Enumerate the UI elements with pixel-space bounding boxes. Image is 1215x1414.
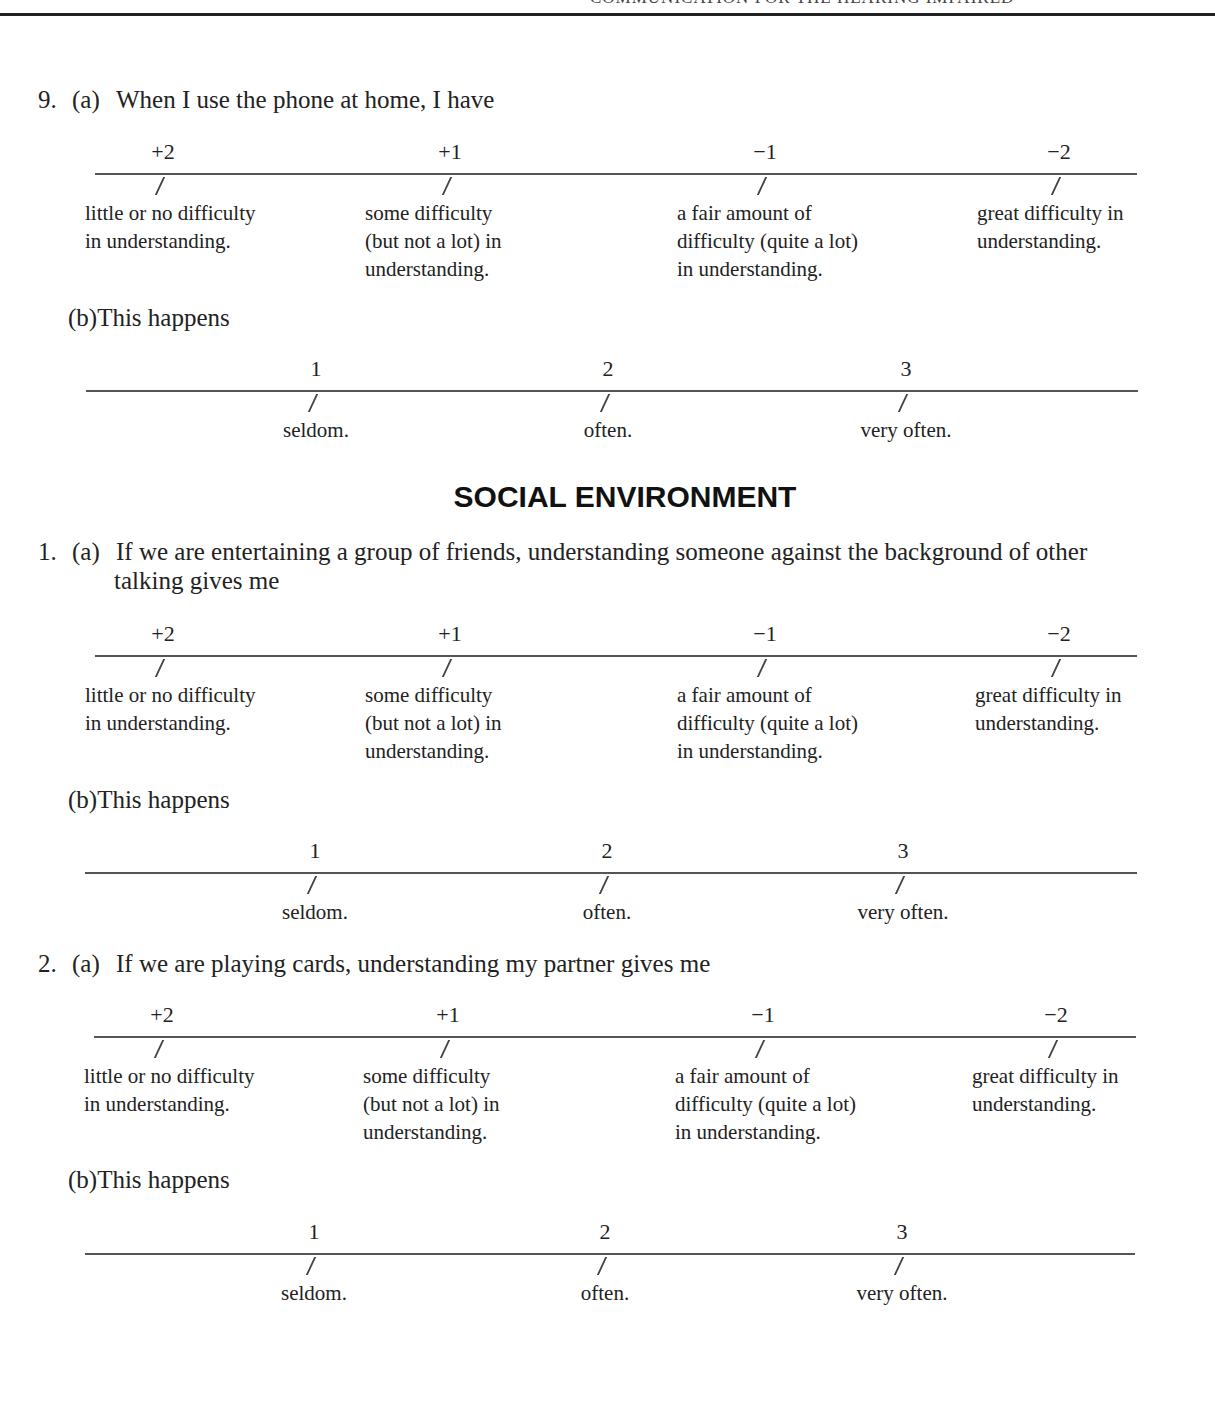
scale-label: a fair amount ofdifficulty (quite a lot)… — [677, 199, 858, 283]
question-number: 9. — [38, 86, 72, 114]
tick-mark — [442, 177, 452, 195]
tick-mark — [155, 659, 165, 677]
tick-mark — [599, 876, 609, 894]
section-title: SOCIAL ENVIRONMENT — [0, 480, 1215, 514]
difficulty-scale-q9: +2 little or no difficultyin understandi… — [95, 173, 1137, 293]
scale-line — [85, 1253, 1135, 1255]
scale-label: very often. — [858, 898, 949, 926]
question-text: This happens — [97, 1166, 230, 1193]
scale-label: often. — [583, 898, 631, 926]
question-2b: (b)This happens — [68, 1166, 230, 1194]
tick-mark — [307, 876, 317, 894]
tick-mark — [1048, 1040, 1058, 1058]
scale-label: little or no difficultyin understanding. — [84, 1062, 255, 1118]
scale-line — [95, 173, 1137, 175]
running-head: COMMUNICATION FOR THE HEARING IMPAIRED — [590, 0, 1014, 8]
scale-label: seldom. — [283, 416, 349, 444]
scale-value: −2 — [1047, 621, 1070, 647]
scale-value: −2 — [1044, 1002, 1067, 1028]
question-1a-cont: talking gives me — [114, 567, 279, 595]
difficulty-scale-q2: +2 little or no difficultyin understandi… — [94, 1036, 1136, 1156]
question-9a: 9.(a)When I use the phone at home, I hav… — [38, 86, 494, 114]
tick-mark — [895, 876, 905, 894]
question-2a: 2.(a)If we are playing cards, understand… — [38, 950, 710, 978]
question-text: talking gives me — [114, 567, 279, 594]
scale-value: −2 — [1047, 139, 1070, 165]
question-part: (b) — [68, 304, 97, 331]
question-text: If we are playing cards, understanding m… — [116, 950, 710, 977]
tick-mark — [155, 177, 165, 195]
scale-value: +1 — [438, 621, 461, 647]
question-part: (a) — [72, 86, 116, 114]
question-text: This happens — [97, 304, 230, 331]
question-1b: (b)This happens — [68, 786, 230, 814]
scale-value: +2 — [150, 1002, 173, 1028]
scale-value: +2 — [151, 621, 174, 647]
scale-value: 3 — [897, 1219, 908, 1245]
scale-value: +1 — [436, 1002, 459, 1028]
scale-label: little or no difficultyin understanding. — [85, 199, 256, 255]
scale-value: 1 — [311, 356, 322, 382]
scale-label: seldom. — [282, 898, 348, 926]
question-text: When I use the phone at home, I have — [116, 86, 494, 113]
scale-label: great difficulty inunderstanding. — [975, 681, 1122, 737]
tick-mark — [755, 1040, 765, 1058]
scale-value: −1 — [751, 1002, 774, 1028]
scale-value: 2 — [602, 838, 613, 864]
question-text: This happens — [97, 786, 230, 813]
scale-value: 3 — [898, 838, 909, 864]
tick-mark — [1051, 659, 1061, 677]
scale-label: seldom. — [281, 1279, 347, 1307]
question-9b: (b)This happens — [68, 304, 230, 332]
scale-line — [86, 390, 1138, 392]
tick-mark — [898, 394, 908, 412]
scale-line — [85, 872, 1137, 874]
tick-mark — [597, 1257, 607, 1275]
scale-value: 3 — [901, 356, 912, 382]
question-part: (a) — [72, 538, 116, 566]
scale-label: often. — [581, 1279, 629, 1307]
tick-mark — [600, 394, 610, 412]
scale-label: a fair amount ofdifficulty (quite a lot)… — [675, 1062, 856, 1146]
tick-mark — [154, 1040, 164, 1058]
scale-label: some difficulty(but not a lot) inunderst… — [363, 1062, 499, 1146]
scale-value: −1 — [753, 139, 776, 165]
scale-label: some difficulty(but not a lot) inunderst… — [365, 199, 501, 283]
tick-mark — [306, 1257, 316, 1275]
scale-value: +2 — [151, 139, 174, 165]
question-1a: 1.(a)If we are entertaining a group of f… — [38, 538, 1087, 566]
question-part: (b) — [68, 1166, 97, 1193]
scale-value: +1 — [438, 139, 461, 165]
scale-line — [95, 655, 1137, 657]
header-rule — [0, 13, 1215, 16]
tick-mark — [308, 394, 318, 412]
tick-mark — [757, 659, 767, 677]
frequency-scale-q2: 1 seldom. 2 often. 3 very often. — [85, 1253, 1135, 1373]
scale-label: often. — [584, 416, 632, 444]
scale-value: 2 — [603, 356, 614, 382]
question-text: If we are entertaining a group of friend… — [116, 538, 1087, 565]
tick-mark — [440, 1040, 450, 1058]
scale-value: 2 — [600, 1219, 611, 1245]
scale-value: 1 — [309, 1219, 320, 1245]
scale-label: little or no difficultyin understanding. — [85, 681, 256, 737]
tick-mark — [442, 659, 452, 677]
scale-value: −1 — [753, 621, 776, 647]
scale-label: some difficulty(but not a lot) inunderst… — [365, 681, 501, 765]
question-number: 1. — [38, 538, 72, 566]
tick-mark — [1051, 177, 1061, 195]
scale-label: great difficulty inunderstanding. — [977, 199, 1124, 255]
scale-label: a fair amount ofdifficulty (quite a lot)… — [677, 681, 858, 765]
difficulty-scale-q1: +2 little or no difficultyin understandi… — [95, 655, 1137, 775]
scale-line — [94, 1036, 1136, 1038]
question-number: 2. — [38, 950, 72, 978]
question-part: (a) — [72, 950, 116, 978]
scale-value: 1 — [310, 838, 321, 864]
scale-label: very often. — [857, 1279, 948, 1307]
tick-mark — [757, 177, 767, 195]
scale-label: very often. — [861, 416, 952, 444]
tick-mark — [894, 1257, 904, 1275]
scale-label: great difficulty inunderstanding. — [972, 1062, 1119, 1118]
question-part: (b) — [68, 786, 97, 813]
